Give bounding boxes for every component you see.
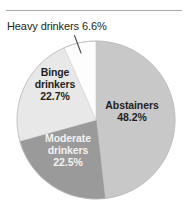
- slice-label-binge-drinkers: Binge drinkers 22.7%: [24, 66, 86, 102]
- slice-label-binge-value: 22.7%: [24, 90, 86, 102]
- slice-label-moderate-value: 22.5%: [35, 156, 101, 168]
- slice-label-abstainers-value: 48.2%: [96, 111, 168, 123]
- slice-label-abstainers: Abstainers 48.2%: [96, 99, 168, 123]
- slice-label-moderate-name-2: drinkers: [35, 144, 101, 156]
- slice-label-moderate-name-1: Moderate: [35, 132, 101, 144]
- pie-chart-figure: Heavy drinkers 6.6% Abstainers 48.2% Bin…: [0, 0, 187, 212]
- slice-label-binge-name-2: drinkers: [24, 78, 86, 90]
- slice-label-heavy-drinkers: Heavy drinkers 6.6%: [7, 20, 107, 33]
- slice-label-moderate-drinkers: Moderate drinkers 22.5%: [35, 132, 101, 168]
- slice-label-abstainers-name: Abstainers: [96, 99, 168, 111]
- slice-label-binge-name-1: Binge: [24, 66, 86, 78]
